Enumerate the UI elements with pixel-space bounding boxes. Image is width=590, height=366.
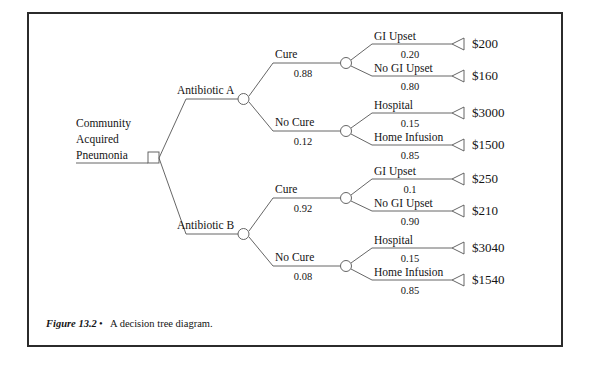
b-nocure-home-label: Home Infusion [374, 266, 444, 278]
decision-tree-diagram: Community Acquired Pneumonia Antibiotic … [0, 0, 590, 366]
terminal-node-b-cure-nogi[interactable] [452, 205, 464, 217]
a-cure-nogi-group: No GI Upset 0.80 $160 [372, 62, 498, 92]
decision-node-square[interactable] [148, 152, 159, 163]
root-label-line1: Community [76, 117, 131, 130]
edge-b-nocure-to-home [351, 269, 372, 280]
a-nocure-group: No Cure 0.12 [273, 116, 352, 147]
caption-figure-number: Figure 13.2 [45, 318, 98, 329]
b-nocure-group: No Cure 0.08 [273, 251, 352, 282]
terminal-node-a-cure-nogi[interactable] [452, 70, 464, 82]
b-nocure-home-payoff: $1540 [472, 272, 505, 287]
edge-a-cure-to-gi [351, 44, 372, 60]
chance-node-antibiotic-b[interactable] [238, 229, 249, 240]
a-cure-nogi-label: No GI Upset [374, 62, 434, 75]
terminal-node-a-cure-gi[interactable] [452, 38, 464, 50]
antibiotic-b-group: Antibiotic B [177, 219, 249, 240]
figure-container: Community Acquired Pneumonia Antibiotic … [0, 0, 590, 366]
chance-node-antibiotic-a[interactable] [238, 94, 249, 105]
a-cure-gi-label: GI Upset [374, 30, 417, 43]
a-nocure-home-payoff: $1500 [472, 137, 505, 152]
terminal-node-a-nocure-hospital[interactable] [452, 107, 464, 119]
a-nocure-hospital-probability: 0.15 [401, 118, 419, 129]
b-cure-gi-probability: 0.1 [403, 184, 416, 195]
root-label-line3: Pneumonia [76, 149, 128, 161]
b-cure-nogi-probability: 0.90 [401, 216, 419, 227]
edge-a-cure-to-nogi [351, 66, 372, 76]
caption-bullet-icon: • [99, 318, 103, 329]
a-nocure-label: No Cure [275, 116, 314, 128]
terminal-node-b-cure-gi[interactable] [452, 173, 464, 185]
b-cure-nogi-payoff: $210 [472, 203, 498, 218]
a-nocure-hospital-label: Hospital [374, 99, 413, 112]
a-nocure-hospital-payoff: $3000 [472, 105, 505, 120]
a-nocure-home-probability: 0.85 [401, 150, 419, 161]
a-cure-nogi-probability: 0.80 [401, 81, 419, 92]
edge-antibiotic-b-to-nocure [249, 237, 273, 266]
terminal-node-a-nocure-home[interactable] [452, 139, 464, 151]
edge-antibiotic-a-to-cure [249, 63, 273, 96]
b-nocure-hospital-probability: 0.15 [401, 253, 419, 264]
chance-node-b-nocure[interactable] [341, 261, 352, 272]
a-cure-gi-payoff: $200 [472, 36, 498, 51]
caption-description: A decision tree diagram. [110, 318, 213, 329]
b-nocure-hospital-payoff: $3040 [472, 240, 505, 255]
a-nocure-home-group: Home Infusion 0.85 $1500 [372, 131, 505, 161]
antibiotic-b-label: Antibiotic B [177, 219, 235, 231]
b-cure-gi-group: GI Upset 0.1 $250 [372, 165, 498, 195]
chance-node-a-nocure[interactable] [341, 126, 352, 137]
root-node-group: Community Acquired Pneumonia [76, 117, 159, 163]
a-cure-gi-group: GI Upset 0.20 $200 [372, 30, 498, 60]
a-nocure-probability: 0.12 [294, 136, 312, 147]
edge-b-cure-to-nogi [351, 201, 372, 211]
b-cure-probability: 0.92 [294, 203, 312, 214]
antibiotic-a-group: Antibiotic A [177, 84, 249, 105]
b-cure-label: Cure [275, 183, 297, 195]
edge-antibiotic-a-to-nocure [249, 102, 273, 131]
a-nocure-home-label: Home Infusion [374, 131, 444, 143]
root-label-line2: Acquired [76, 133, 119, 146]
b-nocure-probability: 0.08 [294, 271, 312, 282]
b-nocure-hospital-group: Hospital 0.15 $3040 [372, 234, 505, 264]
b-nocure-home-group: Home Infusion 0.85 $1540 [372, 266, 505, 296]
chance-node-a-cure[interactable] [341, 58, 352, 69]
edge-root-to-antibiotic-a [159, 99, 186, 158]
b-cure-gi-payoff: $250 [472, 171, 498, 186]
b-nocure-label: No Cure [275, 251, 314, 263]
b-cure-group: Cure 0.92 [273, 183, 352, 214]
a-cure-label: Cure [275, 48, 297, 60]
a-cure-group: Cure 0.88 [273, 48, 352, 79]
b-nocure-home-probability: 0.85 [401, 285, 419, 296]
terminal-node-b-nocure-hospital[interactable] [452, 242, 464, 254]
a-nocure-hospital-group: Hospital 0.15 $3000 [372, 99, 505, 129]
b-cure-nogi-label: No GI Upset [374, 197, 434, 210]
antibiotic-a-label: Antibiotic A [177, 84, 235, 96]
a-cure-nogi-payoff: $160 [472, 68, 498, 83]
edge-antibiotic-b-to-cure [249, 198, 273, 231]
a-cure-gi-probability: 0.20 [401, 49, 419, 60]
edge-b-cure-to-gi [351, 179, 372, 195]
edge-a-nocure-to-home [351, 134, 372, 145]
b-cure-gi-label: GI Upset [374, 165, 417, 178]
terminal-node-b-nocure-home[interactable] [452, 274, 464, 286]
figure-caption: Figure 13.2 • A decision tree diagram. [45, 318, 213, 329]
edge-b-nocure-to-hospital [351, 248, 372, 263]
edge-a-nocure-to-hospital [351, 113, 372, 128]
chance-node-b-cure[interactable] [341, 193, 352, 204]
b-cure-nogi-group: No GI Upset 0.90 $210 [372, 197, 498, 227]
b-nocure-hospital-label: Hospital [374, 234, 413, 247]
a-cure-probability: 0.88 [294, 68, 312, 79]
